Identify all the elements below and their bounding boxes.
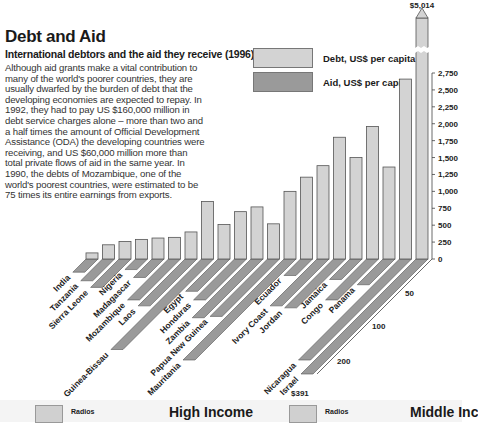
aid-axis-tick: 50 xyxy=(405,289,414,298)
israel-aid-annotation: $391 xyxy=(291,389,309,398)
debt-bar xyxy=(416,18,428,259)
debt-bar xyxy=(350,158,362,259)
debt-aid-chart: $5,01402505007501,0001,2501,5001,7502,00… xyxy=(0,0,462,400)
debt-axis-tick: 1,250 xyxy=(438,170,459,179)
debt-axis-tick: 2,500 xyxy=(438,86,459,95)
footer-right-radios-label: Radios xyxy=(325,408,348,415)
debt-bar xyxy=(152,238,164,259)
debt-bar xyxy=(334,137,346,259)
footer-right-heading: Middle Inc xyxy=(410,404,478,420)
aid-axis-tick: 200 xyxy=(337,357,351,366)
country-label: Guinea-Bissau xyxy=(61,350,110,399)
debt-axis-tick: 250 xyxy=(438,238,452,247)
debt-bar xyxy=(185,232,197,259)
debt-axis-tick: 750 xyxy=(438,204,452,213)
debt-bar xyxy=(202,202,214,259)
debt-axis-tick: 2,250 xyxy=(438,103,459,112)
footer-left-panel: Radios xyxy=(35,400,94,422)
footer-right-swatch xyxy=(289,405,317,423)
debt-axis-tick: 1,750 xyxy=(438,137,459,146)
footer-strip: Radios High Income Radios Middle Inc xyxy=(0,400,462,422)
debt-axis-tick: 0 xyxy=(438,255,443,264)
debt-bar xyxy=(400,79,412,259)
debt-axis-tick: 2,750 xyxy=(438,69,459,78)
debt-axis-tick: 1,000 xyxy=(438,187,459,196)
debt-bar xyxy=(268,224,280,259)
debt-axis-tick: 2,000 xyxy=(438,120,459,129)
footer-left-radios-label: Radios xyxy=(71,408,94,415)
debt-bar xyxy=(284,191,296,259)
aid-axis-tick: 100 xyxy=(372,322,386,331)
israel-debt-annotation: $5,014 xyxy=(410,1,435,10)
debt-bar xyxy=(119,241,131,259)
debt-bar xyxy=(235,212,247,259)
debt-bar xyxy=(383,167,395,259)
debt-bar xyxy=(367,126,379,259)
debt-bar xyxy=(136,239,148,259)
debt-bar xyxy=(301,177,313,259)
debt-bar xyxy=(103,245,115,259)
footer-left-heading: High Income xyxy=(169,404,253,420)
debt-bar xyxy=(86,253,98,259)
debt-axis-tick: 500 xyxy=(438,221,452,230)
debt-bar xyxy=(169,237,181,259)
debt-bar xyxy=(317,166,329,259)
debt-bar xyxy=(251,207,263,259)
debt-axis-tick: 1,500 xyxy=(438,154,459,163)
debt-bar xyxy=(218,225,230,259)
footer-left-swatch xyxy=(35,405,63,423)
footer-right-panel: Radios xyxy=(289,400,348,422)
